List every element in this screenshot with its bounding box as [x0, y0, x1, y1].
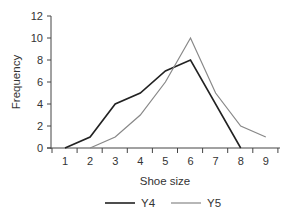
x-tick-label: 7: [213, 155, 219, 167]
y-tick-label: 0: [37, 142, 43, 154]
legend-label-y5: Y5: [207, 197, 221, 209]
x-tick-label: 9: [263, 155, 269, 167]
y-tick-label: 2: [37, 120, 43, 132]
series-line-y5: [90, 38, 266, 148]
y-axis: 024681012: [31, 10, 51, 154]
y-tick-label: 10: [31, 32, 43, 44]
x-axis: 123456789: [47, 148, 280, 167]
plot-lines: [65, 38, 266, 148]
x-axis-title: Shoe size: [140, 175, 191, 187]
y-tick-label: 4: [37, 98, 43, 110]
y-tick-label: 6: [37, 76, 43, 88]
x-tick-label: 4: [137, 155, 143, 167]
line-chart: 024681012 123456789 Frequency Shoe size …: [0, 0, 291, 219]
legend-label-y4: Y4: [141, 197, 156, 209]
x-tick-label: 1: [62, 155, 68, 167]
x-tick-label: 5: [162, 155, 168, 167]
legend: Y4 Y5: [105, 197, 221, 209]
series-line-y4: [65, 60, 241, 148]
x-tick-label: 3: [112, 155, 118, 167]
y-tick-label: 8: [37, 54, 43, 66]
x-tick-label: 6: [187, 155, 193, 167]
y-axis-title: Frequency: [10, 55, 22, 110]
y-tick-label: 12: [31, 10, 43, 22]
x-tick-label: 8: [238, 155, 244, 167]
x-tick-label: 2: [87, 155, 93, 167]
